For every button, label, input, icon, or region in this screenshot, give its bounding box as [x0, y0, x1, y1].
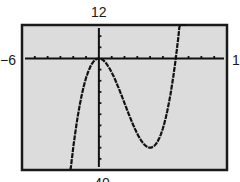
- plot-frame: [22, 25, 227, 170]
- graph-plot: [0, 0, 240, 182]
